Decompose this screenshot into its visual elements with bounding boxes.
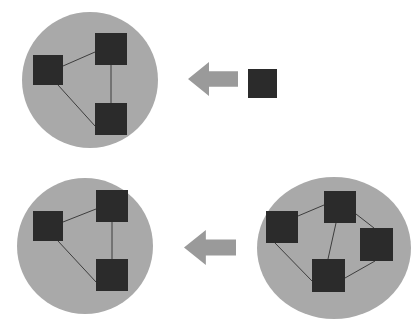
- cluster-group-bottom-right-cluster: [257, 177, 411, 319]
- cluster-group-top-left-cluster: [22, 12, 158, 148]
- graph-node-node-left[interactable]: [33, 55, 63, 85]
- graph-node-node-top[interactable]: [95, 33, 127, 65]
- graph-node-node-top[interactable]: [96, 190, 128, 222]
- diagram-canvas: [0, 0, 415, 323]
- graph-node-node-left[interactable]: [33, 211, 63, 241]
- graph-node-node-left[interactable]: [266, 211, 298, 243]
- graph-node-node-top[interactable]: [324, 191, 356, 223]
- graph-node-node-right[interactable]: [360, 228, 393, 261]
- graph-node-isolated-node[interactable]: [248, 69, 277, 98]
- isolated-nodes-layer: [248, 69, 277, 98]
- cluster-group-bottom-left-cluster: [17, 178, 153, 314]
- graph-node-node-bottom-center[interactable]: [312, 259, 345, 292]
- diagram-root: [0, 0, 415, 323]
- graph-node-node-bottom[interactable]: [95, 103, 127, 135]
- cluster-circle-bottom-left-cluster: [17, 178, 153, 314]
- graph-node-node-bottom[interactable]: [96, 259, 128, 291]
